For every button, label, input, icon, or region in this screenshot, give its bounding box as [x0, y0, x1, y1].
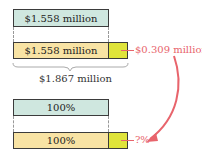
- new-percent-bar: 100%: [13, 132, 109, 149]
- curved-arrow: [150, 56, 179, 139]
- increase-percent-pointer: [121, 140, 134, 141]
- new-percent-label: 100%: [47, 135, 76, 146]
- left-guide-line-bottom: [13, 116, 14, 132]
- original-percent-label: 100%: [47, 102, 76, 113]
- total-brace: [13, 63, 128, 71]
- total-amount-label: $1.867 million: [39, 73, 112, 84]
- right-guide-line-bottom: [108, 116, 109, 132]
- original-percent-bar: 100%: [13, 99, 109, 116]
- increase-percent-label: ?%: [135, 134, 150, 145]
